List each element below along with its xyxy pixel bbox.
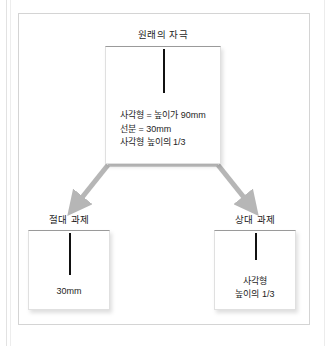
node-box-absolute: 30mm (28, 230, 110, 310)
description-line: 사각형 = 높이가 90mm (120, 109, 206, 123)
node-description-original: 사각형 = 높이가 90mm 선분 = 30mm 사각형 높이의 1/3 (120, 109, 206, 150)
page-gutter-edge-line-inner (10, 0, 11, 346)
stimulus-line-relative (255, 233, 257, 260)
description-line: 선분 = 30mm (120, 123, 206, 137)
node-caption-absolute: 30mm (29, 285, 109, 298)
page-gutter-edge-line (6, 0, 7, 346)
page-right-edge-line (324, 0, 325, 346)
node-title-absolute: 절대 과제 (28, 212, 110, 226)
caption-line: 높이의 1/3 (215, 288, 295, 301)
stimulus-line-original (163, 49, 165, 93)
description-line: 사각형 높이의 1/3 (120, 136, 206, 150)
node-box-relative: 사각형 높이의 1/3 (214, 230, 296, 310)
caption-line: 30mm (29, 285, 109, 298)
stimulus-line-absolute (69, 233, 71, 275)
node-title-original: 원래의 자극 (105, 27, 221, 41)
caption-line: 사각형 (215, 275, 295, 288)
node-caption-relative: 사각형 높이의 1/3 (215, 275, 295, 301)
node-title-relative: 상대 과제 (214, 212, 296, 226)
node-box-original: 사각형 = 높이가 90mm 선분 = 30mm 사각형 높이의 1/3 (105, 46, 221, 164)
